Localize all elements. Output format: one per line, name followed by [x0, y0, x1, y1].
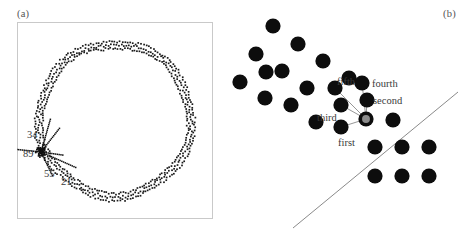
ring-dot — [171, 165, 173, 167]
panel-a-plot — [17, 22, 213, 219]
ring-dot — [108, 201, 110, 203]
ring-dot — [45, 89, 47, 91]
parastichy-ray-dot — [71, 165, 73, 167]
ring-dot — [44, 107, 46, 109]
lattice-dot — [248, 46, 263, 61]
ring-dot — [108, 193, 110, 195]
parastichy-ray-dot — [45, 161, 47, 163]
ring-dot — [49, 75, 51, 77]
ring-dot — [103, 46, 105, 48]
ring-dot — [74, 179, 76, 181]
ring-dot — [94, 198, 96, 200]
ring-dot — [118, 193, 120, 195]
ring-dot — [119, 197, 121, 199]
ring-dot — [182, 76, 184, 78]
ring-dot — [122, 41, 124, 43]
parastichy-ray-dot — [51, 156, 53, 158]
ring-dot — [185, 142, 187, 144]
ring-dot — [192, 121, 194, 123]
ring-dot — [179, 153, 181, 155]
parastichy-ray-dot — [51, 138, 53, 140]
ring-dot — [169, 176, 171, 178]
ring-dot — [188, 127, 190, 129]
ring-dot — [101, 196, 103, 198]
ring-dot — [125, 192, 127, 194]
ring-dot — [127, 198, 129, 200]
parastichy-ray-dot — [47, 142, 49, 144]
ring-dot — [173, 77, 175, 79]
ring-dot — [64, 169, 66, 171]
parastichy-ray-dot — [44, 160, 46, 162]
parastichy-ray-dot — [58, 159, 60, 161]
ring-dot — [187, 155, 189, 157]
ring-dot — [184, 106, 186, 108]
ring-dot — [85, 47, 87, 49]
ring-dot — [103, 50, 105, 52]
ring-dot — [55, 63, 57, 65]
ring-dot — [41, 101, 43, 103]
ring-dot — [171, 169, 173, 171]
ring-dot — [181, 165, 183, 167]
ring-dot — [166, 172, 168, 174]
ring-dot — [136, 50, 138, 52]
ring-dot — [64, 57, 66, 59]
ring-dot — [74, 56, 76, 58]
ring-dot — [51, 81, 53, 83]
ring-dot — [49, 92, 51, 94]
ring-dot — [77, 179, 79, 181]
ring-dot — [190, 114, 192, 116]
ring-dot — [58, 75, 60, 77]
ring-dot — [143, 185, 145, 187]
ring-dot — [166, 67, 168, 69]
parastichy-number-21: 21 — [61, 176, 72, 187]
ring-dot — [120, 191, 122, 193]
ring-dot — [142, 186, 144, 188]
ring-dot — [148, 185, 150, 187]
convergence-dot — [39, 150, 41, 152]
ring-dot — [124, 47, 126, 49]
ring-dot — [46, 98, 48, 100]
ring-dot — [102, 199, 104, 201]
ring-dot — [52, 86, 54, 88]
ring-dot — [164, 174, 166, 176]
ring-dot — [184, 81, 186, 83]
parastichy-ray-dot — [49, 122, 51, 124]
ring-dot — [171, 66, 173, 68]
ring-dot — [73, 59, 75, 61]
ring-dot — [185, 84, 187, 86]
ring-dot — [59, 169, 61, 171]
ring-dot — [59, 72, 61, 74]
lattice-dot — [385, 112, 400, 127]
parastichy-ray-dot — [47, 154, 49, 156]
parastichy-ray-dot — [45, 135, 47, 137]
ring-dot — [85, 44, 87, 46]
ring-dot — [168, 62, 170, 64]
ring-dot — [164, 172, 166, 174]
ring-dot — [152, 53, 154, 55]
origin-dot-core — [362, 115, 370, 123]
lattice-dot — [367, 139, 382, 154]
ring-dot — [84, 189, 86, 191]
parastichy-ray-dot — [57, 154, 59, 156]
lattice-dot — [421, 139, 436, 154]
ring-dot — [43, 84, 45, 86]
ring-dot — [145, 49, 147, 51]
ring-dot — [172, 70, 174, 72]
ring-dot — [40, 95, 42, 97]
ring-dot — [36, 116, 38, 118]
parastichy-ray-dot — [75, 167, 77, 169]
ring-dot — [110, 43, 112, 45]
ring-dot — [129, 42, 131, 44]
ring-dot — [80, 183, 82, 185]
ring-dot — [156, 185, 158, 187]
parastichy-ray-dot — [20, 149, 22, 151]
ring-dot — [150, 51, 152, 53]
ring-dot — [136, 45, 138, 47]
ring-dot — [88, 44, 90, 46]
ring-dot — [157, 56, 159, 58]
ring-dot — [126, 45, 128, 47]
parastichy-ray-dot — [60, 154, 62, 156]
ring-dot — [189, 99, 191, 101]
ring-dot — [170, 61, 172, 63]
ring-dot — [127, 42, 129, 44]
